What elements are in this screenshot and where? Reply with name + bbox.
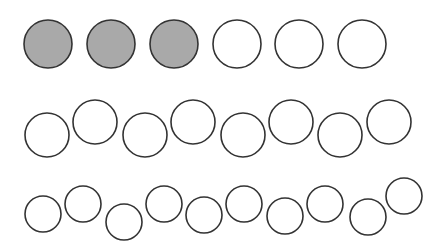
empty-circle: [146, 186, 182, 222]
empty-circle: [226, 186, 262, 222]
empty-circle: [318, 113, 362, 157]
empty-circle: [25, 113, 69, 157]
empty-circle: [213, 20, 261, 68]
empty-circle: [73, 100, 117, 144]
empty-circle: [25, 196, 61, 232]
empty-circle: [65, 186, 101, 222]
circle-diagram: [0, 0, 447, 251]
empty-circle: [350, 199, 386, 235]
shaded-circle: [150, 20, 198, 68]
empty-circle: [269, 100, 313, 144]
empty-circle: [106, 204, 142, 240]
empty-circle: [171, 100, 215, 144]
empty-circle: [186, 197, 222, 233]
empty-circle: [267, 198, 303, 234]
empty-circle: [338, 20, 386, 68]
shaded-circle: [87, 20, 135, 68]
empty-circle: [367, 100, 411, 144]
empty-circle: [307, 186, 343, 222]
empty-circle: [275, 20, 323, 68]
empty-circle: [221, 113, 265, 157]
shaded-circle: [24, 20, 72, 68]
empty-circle: [123, 113, 167, 157]
empty-circle: [386, 178, 422, 214]
